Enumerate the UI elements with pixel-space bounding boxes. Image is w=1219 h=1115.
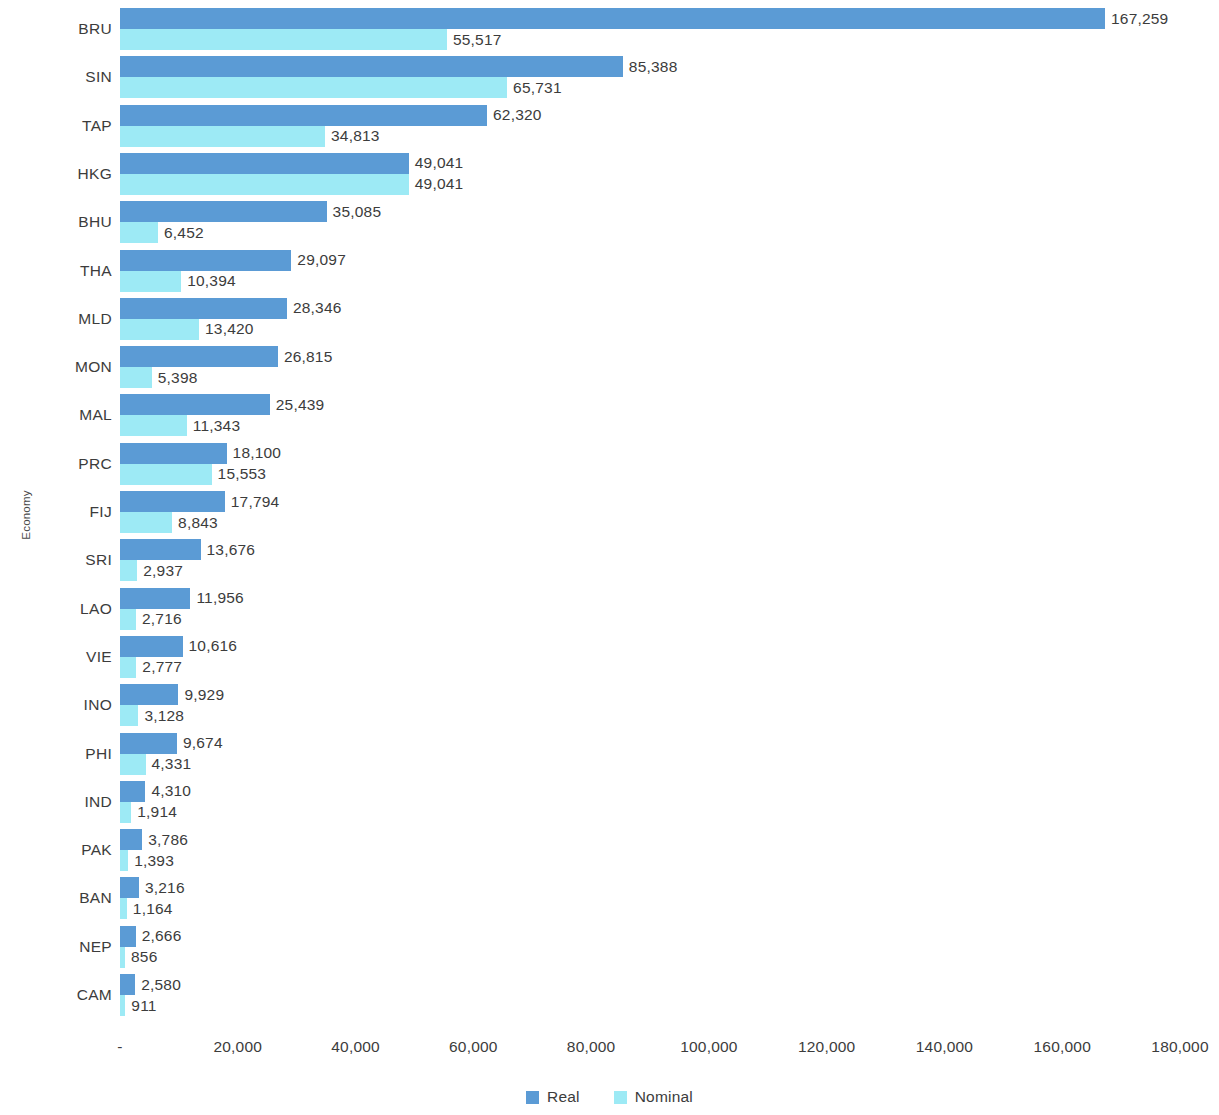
bar-value-label: 2,937: [143, 562, 183, 580]
bar-nominal[interactable]: [120, 850, 128, 871]
bar-row: 4,310: [120, 781, 1219, 802]
bar-row: 34,813: [120, 126, 1219, 147]
bar-value-label: 1,914: [137, 803, 177, 821]
category-label: VIE: [8, 648, 112, 666]
bar-real[interactable]: [120, 926, 136, 947]
bar-row: 49,041: [120, 174, 1219, 195]
bar-row: 11,343: [120, 415, 1219, 436]
bar-row: 49,041: [120, 153, 1219, 174]
bar-nominal[interactable]: [120, 367, 152, 388]
bar-nominal[interactable]: [120, 560, 137, 581]
legend-item[interactable]: Nominal: [614, 1088, 693, 1106]
category-label: PRC: [8, 455, 112, 473]
bar-nominal[interactable]: [120, 222, 158, 243]
bar-value-label: 25,439: [276, 396, 325, 414]
bar-real[interactable]: [120, 443, 227, 464]
bar-nominal[interactable]: [120, 947, 125, 968]
category-label: CAM: [8, 986, 112, 1004]
bar-group: BHU35,0856,452: [0, 201, 1219, 243]
category-label: MON: [8, 358, 112, 376]
bar-real[interactable]: [120, 394, 270, 415]
bar-group: SRI13,6762,937: [0, 539, 1219, 581]
bar-nominal[interactable]: [120, 705, 138, 726]
bar-value-label: 29,097: [297, 251, 346, 269]
bar-real[interactable]: [120, 298, 287, 319]
bar-row: 28,346: [120, 298, 1219, 319]
bar-nominal[interactable]: [120, 609, 136, 630]
bar-row: 18,100: [120, 443, 1219, 464]
bar-real[interactable]: [120, 733, 177, 754]
bar-value-label: 6,452: [164, 224, 204, 242]
x-axis-tick-label: 60,000: [449, 1038, 498, 1056]
bar-real[interactable]: [120, 781, 145, 802]
bar-group: HKG49,04149,041: [0, 153, 1219, 195]
category-label: THA: [8, 262, 112, 280]
bar-row: 1,393: [120, 850, 1219, 871]
bar-row: 62,320: [120, 105, 1219, 126]
category-label: SRI: [8, 551, 112, 569]
bar-real[interactable]: [120, 201, 327, 222]
bar-value-label: 49,041: [415, 175, 464, 193]
bar-row: 17,794: [120, 491, 1219, 512]
bar-group: PRC18,10015,553: [0, 443, 1219, 485]
bar-group: VIE10,6162,777: [0, 636, 1219, 678]
bar-real[interactable]: [120, 588, 190, 609]
bar-nominal[interactable]: [120, 512, 172, 533]
bar-nominal[interactable]: [120, 898, 127, 919]
bar-row: 25,439: [120, 394, 1219, 415]
bar-row: 2,937: [120, 560, 1219, 581]
bar-nominal[interactable]: [120, 464, 212, 485]
bar-row: 9,674: [120, 733, 1219, 754]
bar-row: 3,128: [120, 705, 1219, 726]
bar-value-label: 17,794: [231, 493, 280, 511]
bar-real[interactable]: [120, 684, 178, 705]
bar-nominal[interactable]: [120, 271, 181, 292]
bar-real[interactable]: [120, 56, 623, 77]
bar-real[interactable]: [120, 491, 225, 512]
bar-nominal[interactable]: [120, 126, 325, 147]
bar-row: 10,394: [120, 271, 1219, 292]
bar-group: MAL25,43911,343: [0, 394, 1219, 436]
bar-group: BAN3,2161,164: [0, 877, 1219, 919]
bar-real[interactable]: [120, 877, 139, 898]
category-label: PAK: [8, 841, 112, 859]
bar-real[interactable]: [120, 8, 1105, 29]
category-label: TAP: [8, 117, 112, 135]
bar-real[interactable]: [120, 346, 278, 367]
bar-nominal[interactable]: [120, 802, 131, 823]
x-axis-tick-label: -: [117, 1038, 122, 1056]
bar-nominal[interactable]: [120, 77, 507, 98]
bar-real[interactable]: [120, 974, 135, 995]
bar-nominal[interactable]: [120, 995, 125, 1016]
bar-value-label: 85,388: [629, 58, 678, 76]
legend-label: Real: [547, 1088, 580, 1106]
bar-row: 5,398: [120, 367, 1219, 388]
bar-real[interactable]: [120, 105, 487, 126]
bar-value-label: 28,346: [293, 299, 342, 317]
category-label: SIN: [8, 68, 112, 86]
bar-real[interactable]: [120, 539, 201, 560]
bar-nominal[interactable]: [120, 754, 146, 775]
bar-nominal[interactable]: [120, 657, 136, 678]
x-axis-tick-label: 20,000: [213, 1038, 262, 1056]
bar-nominal[interactable]: [120, 174, 409, 195]
bar-nominal[interactable]: [120, 29, 447, 50]
bar-row: 35,085: [120, 201, 1219, 222]
bar-real[interactable]: [120, 153, 409, 174]
category-label: INO: [8, 696, 112, 714]
bar-nominal[interactable]: [120, 415, 187, 436]
legend-item[interactable]: Real: [526, 1088, 580, 1106]
bar-group: SIN85,38865,731: [0, 56, 1219, 98]
bar-value-label: 49,041: [415, 154, 464, 172]
bar-real[interactable]: [120, 636, 183, 657]
bar-nominal[interactable]: [120, 319, 199, 340]
legend-label: Nominal: [635, 1088, 693, 1106]
grouped-bar-chart: Economy BRU167,25955,517SIN85,38865,731T…: [0, 0, 1219, 1115]
x-axis-tick-label: 100,000: [680, 1038, 737, 1056]
bar-row: 1,914: [120, 802, 1219, 823]
bar-value-label: 2,580: [141, 976, 181, 994]
bar-real[interactable]: [120, 250, 291, 271]
bar-real[interactable]: [120, 829, 142, 850]
bar-row: 85,388: [120, 56, 1219, 77]
bar-value-label: 8,843: [178, 514, 218, 532]
